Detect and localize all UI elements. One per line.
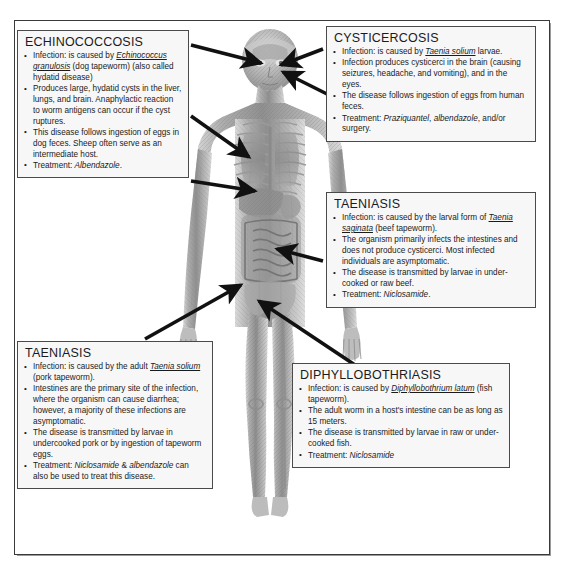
list-item: Treatment: Niclosamide. (333, 290, 529, 301)
list-item: Infection: is caused by Taenia solium la… (333, 47, 529, 58)
bullet-list-echinococcosis: Infection: is caused by Echinococcus gra… (24, 51, 182, 172)
list-item: Treatment: Albendazole. (24, 161, 182, 172)
callout-title-diphyllobothriasis: DIPHYLLOBOTHRIASIS (300, 369, 503, 382)
bullet-list-cysticercosis: Infection: is caused by Taenia solium la… (333, 47, 529, 135)
callout-taeniasis-pork[interactable]: TAENIASIS Infection: is caused by the ad… (17, 341, 213, 489)
figure-frame: ECHINOCOCCOSIS Infection: is caused by E… (14, 20, 550, 555)
bullet-list-diphyllobothriasis: Infection: is caused by Diphyllobothrium… (299, 384, 503, 461)
list-item: The disease is transmitted by larvae in … (333, 268, 529, 290)
list-item: Treatment: Niclosamide & albendazole can… (24, 461, 206, 483)
callout-title-taeniasis-pork: TAENIASIS (25, 347, 206, 360)
callout-diphyllobothriasis[interactable]: DIPHYLLOBOTHRIASIS Infection: is caused … (292, 363, 510, 468)
list-item: The disease follows ingestion of eggs fr… (333, 91, 529, 113)
list-item: Treatment: Praziquantel, albendazole, an… (333, 114, 529, 136)
legs (245, 313, 294, 517)
head-region (242, 29, 298, 105)
list-item: The adult worm in a host's intestine can… (299, 406, 503, 428)
intestines (241, 215, 301, 317)
list-item: The organism primarily infects the intes… (333, 235, 529, 267)
callout-echinococcosis[interactable]: ECHINOCOCCOSIS Infection: is caused by E… (17, 30, 189, 178)
list-item: Infection produces cysticerci in the bra… (333, 58, 529, 90)
list-item: Produces large, hydatid cysts in the liv… (24, 84, 182, 127)
callout-title-cysticercosis: CYSTICERCOSIS (334, 32, 529, 45)
list-item: This disease follows ingestion of eggs i… (24, 128, 182, 160)
callout-taeniasis-beef[interactable]: TAENIASIS Infection: is caused by the la… (326, 192, 536, 308)
list-item: Infection: is caused by the larval form … (333, 213, 529, 235)
callout-cysticercosis[interactable]: CYSTICERCOSIS Infection: is caused by Ta… (326, 26, 536, 142)
list-item: Infection: is caused by Diphyllobothrium… (299, 384, 503, 406)
bullet-list-taeniasis-pork: Infection: is caused by the adult Taenia… (24, 362, 206, 483)
list-item: Intestines are the primary site of the i… (24, 384, 206, 427)
callout-title-taeniasis-beef: TAENIASIS (334, 198, 529, 211)
list-item: Infection: is caused by Echinococcus gra… (24, 51, 182, 83)
list-item: The disease is transmitted by larvae in … (24, 428, 206, 460)
list-item: The disease is transmitted by larvae in … (299, 428, 503, 450)
list-item: Infection: is caused by the adult Taenia… (24, 362, 206, 384)
list-item: Treatment: Niclosamide (299, 451, 503, 462)
bullet-list-taeniasis-beef: Infection: is caused by the larval form … (333, 213, 529, 301)
callout-title-echinococcosis: ECHINOCOCCOSIS (25, 36, 182, 49)
